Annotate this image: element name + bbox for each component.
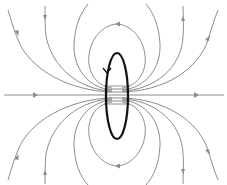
- arrow-down-right-icon: [205, 149, 210, 155]
- arrow-up-icon: [181, 16, 185, 21]
- arrow-right-icon: [194, 92, 199, 98]
- arrow-up-icon: [43, 170, 47, 175]
- axis-field-line: [4, 92, 224, 98]
- current-direction-arrow-icon: [103, 68, 111, 73]
- arrow-right-icon: [33, 92, 38, 98]
- arrow-down-icon: [43, 15, 47, 20]
- current-loop: [103, 53, 128, 139]
- upper-field-lines: [8, 4, 218, 92]
- arrow-left-icon: [115, 22, 120, 27]
- arrow-left-icon: [115, 164, 120, 169]
- lower-field-lines: [8, 98, 218, 185]
- arrow-down-icon: [181, 169, 185, 174]
- current-loop-field-diagram: [0, 0, 227, 185]
- arrow-up-right-icon: [205, 35, 210, 41]
